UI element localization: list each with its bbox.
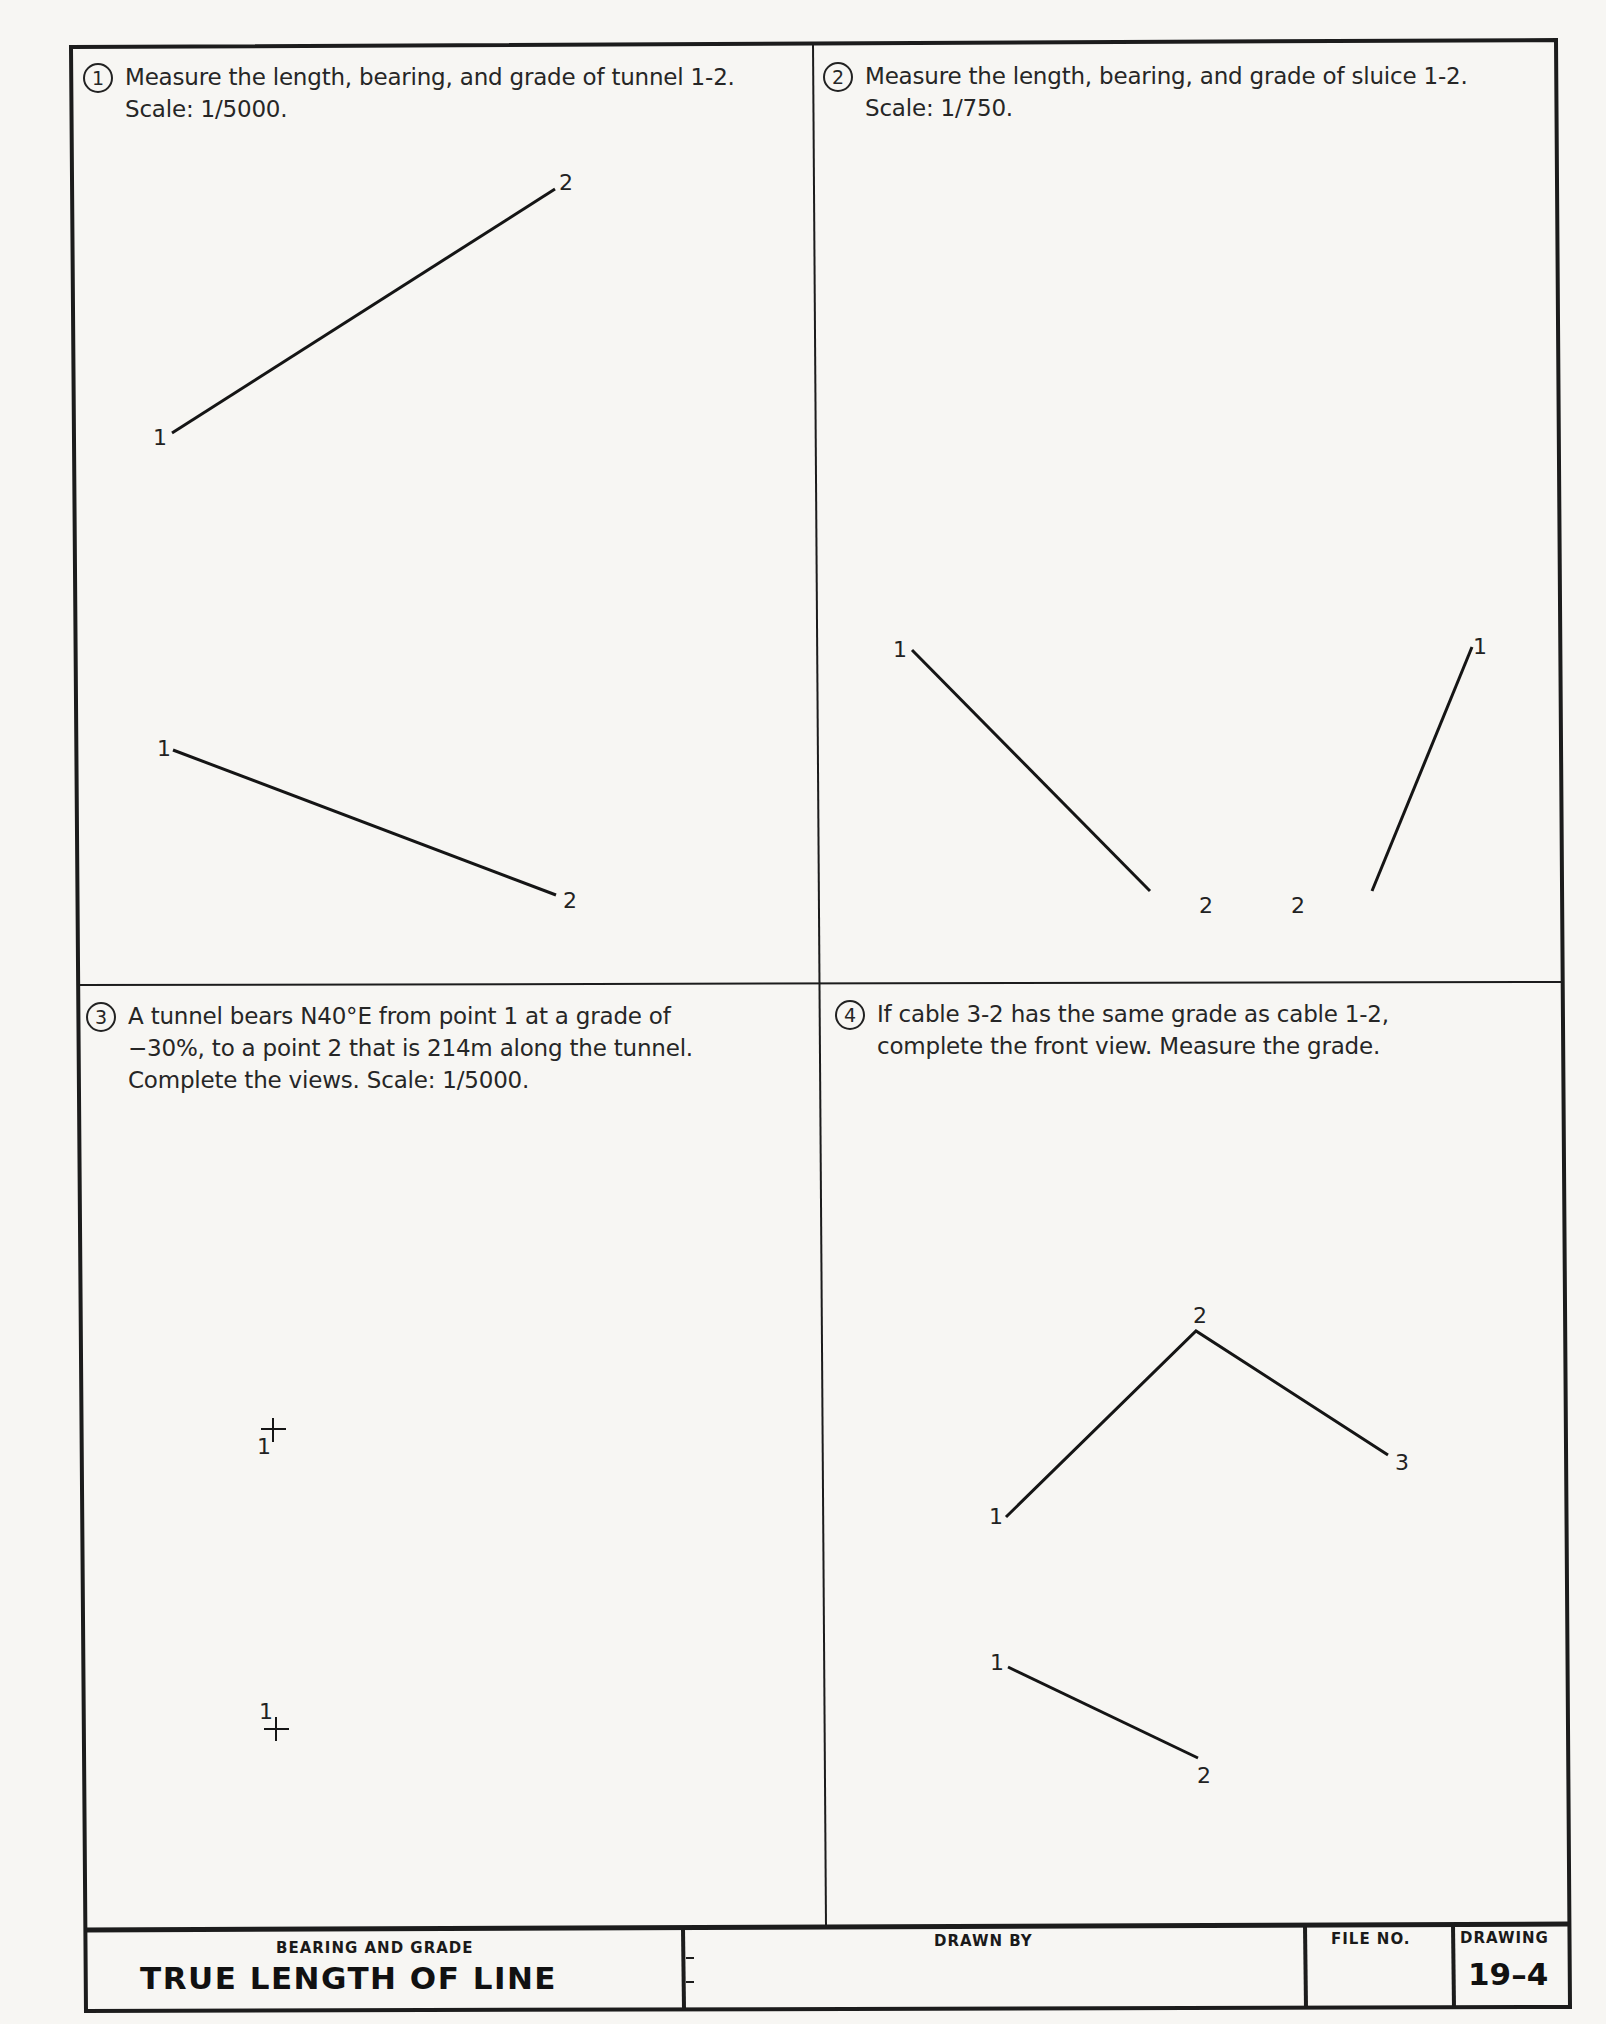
p3-front-label-1: 1 [259, 1701, 273, 1723]
p2-right-label-1: 1 [1473, 636, 1487, 658]
p4-top-label-2: 2 [1193, 1305, 1207, 1327]
problem-1-text: Measure the length, bearing, and grade o… [125, 61, 735, 125]
problem-4-text: If cable 3-2 has the same grade as cable… [877, 998, 1389, 1062]
p1-front-label-2: 2 [563, 890, 577, 912]
p1-top-label-1: 1 [153, 427, 167, 449]
problem-4-statement: 4 If cable 3-2 has the same grade as cab… [835, 998, 1389, 1062]
p2-right-label-2: 2 [1291, 895, 1305, 917]
p1-top-view-line [172, 189, 555, 433]
p1-front-view-line [173, 750, 556, 895]
p4-front-view-line [1008, 1667, 1198, 1758]
p2-right-view-line [1372, 647, 1472, 891]
title-block-title: TRUE LENGTH OF LINE [140, 1960, 557, 1996]
p4-top-label-3: 3 [1395, 1452, 1409, 1474]
p4-front-label-1: 1 [990, 1652, 1004, 1674]
p2-left-label-2: 2 [1199, 895, 1213, 917]
problem-2-number: 2 [823, 62, 853, 92]
file-no-label: FILE NO. [1331, 1930, 1411, 1948]
problem-3-statement: 3 A tunnel bears N40°E from point 1 at a… [86, 1000, 693, 1096]
drawn-by-label: DRAWN BY [934, 1932, 1033, 1950]
p3-top-label-1: 1 [257, 1436, 271, 1458]
problem-3-text: A tunnel bears N40°E from point 1 at a g… [128, 1000, 693, 1096]
drawing-number: 19–4 [1468, 1956, 1548, 1992]
problem-1-statement: 1 Measure the length, bearing, and grade… [83, 61, 735, 125]
problem-4-number: 4 [835, 1000, 865, 1030]
problem-2-text: Measure the length, bearing, and grade o… [865, 60, 1468, 124]
p2-left-view-line [912, 650, 1150, 891]
p1-front-label-1: 1 [157, 738, 171, 760]
problem-2-statement: 2 Measure the length, bearing, and grade… [823, 60, 1468, 124]
p4-front-label-2: 2 [1197, 1765, 1211, 1787]
title-block-subtitle: BEARING AND GRADE [276, 1939, 474, 1957]
p2-left-label-1: 1 [893, 639, 907, 661]
problem-1-number: 1 [83, 63, 113, 93]
p1-top-label-2: 2 [559, 172, 573, 194]
p4-top-label-1: 1 [989, 1506, 1003, 1528]
problem-3-number: 3 [86, 1002, 116, 1032]
drawing-label: DRAWING [1460, 1929, 1549, 1947]
p4-top-view-lines [1006, 1331, 1388, 1517]
worksheet: 1 Measure the length, bearing, and grade… [0, 0, 1606, 2024]
